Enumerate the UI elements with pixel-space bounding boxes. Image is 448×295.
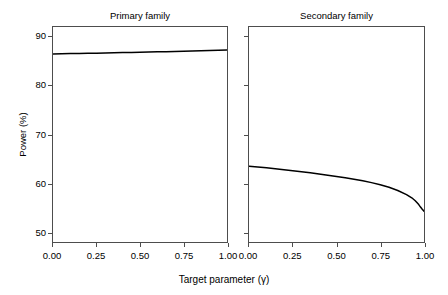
- y-axis-title: Power (%): [17, 74, 28, 194]
- x-axis-tick-label: 0.50: [319, 250, 355, 261]
- curve-secondary-family: [249, 27, 424, 242]
- x-axis-tick-mark: [381, 243, 382, 247]
- x-axis-tick-label: 0.25: [78, 250, 114, 261]
- x-axis-tick-label: 1.00: [407, 250, 443, 261]
- x-axis-tick-mark: [337, 243, 338, 247]
- panel-title-secondary-family: Secondary family: [248, 10, 425, 21]
- x-axis-title: Target parameter (γ): [0, 274, 448, 285]
- x-axis-tick-label: 0.00: [230, 250, 266, 261]
- panel-primary-family: [52, 26, 228, 243]
- x-axis-tick-mark: [292, 243, 293, 247]
- plot-area-primary-family: [53, 27, 227, 242]
- x-axis-tick-label: 1.00: [210, 250, 246, 261]
- curve-primary-family: [53, 27, 227, 242]
- x-axis-tick-mark: [52, 243, 53, 247]
- x-axis-tick-mark: [228, 243, 229, 247]
- plot-area-secondary-family: [249, 27, 424, 242]
- panel-secondary-family: [248, 26, 425, 243]
- y-axis-tick-label: 90: [16, 31, 46, 41]
- x-axis-tick-label: 0.00: [34, 250, 70, 261]
- x-axis-tick-mark: [140, 243, 141, 247]
- x-axis-tick-mark: [184, 243, 185, 247]
- figure-canvas: Primary family Secondary family 0.000.25…: [0, 0, 448, 295]
- x-axis-tick-label: 0.75: [363, 250, 399, 261]
- x-axis-tick-mark: [96, 243, 97, 247]
- x-axis-tick-mark: [425, 243, 426, 247]
- x-axis-tick-label: 0.50: [122, 250, 158, 261]
- x-axis-tick-label: 0.75: [166, 250, 202, 261]
- y-axis-tick-label: 50: [16, 228, 46, 238]
- panel-title-primary-family: Primary family: [52, 10, 228, 21]
- x-axis-tick-label: 0.25: [274, 250, 310, 261]
- x-axis-tick-mark: [248, 243, 249, 247]
